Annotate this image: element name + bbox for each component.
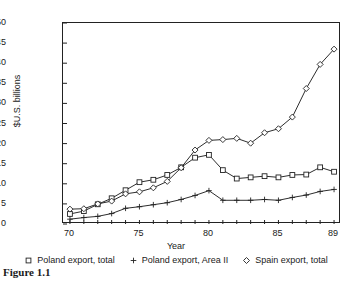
x-tick-label: 75 <box>126 229 150 238</box>
legend-square-icon <box>24 256 33 265</box>
x-tick-label: 89 <box>321 229 345 238</box>
y-tick-label: 15 <box>0 159 6 168</box>
legend-entry: Poland export, Area II <box>129 255 229 265</box>
legend-diamond-icon <box>242 256 251 265</box>
y-tick-label: 50 <box>0 18 6 27</box>
figure-caption: Figure 1.1 <box>3 266 50 278</box>
legend-label: Poland export, Area II <box>142 255 229 265</box>
y-tick-label: 45 <box>0 38 6 47</box>
y-tick-label: 35 <box>0 78 6 87</box>
data-series <box>67 187 337 222</box>
y-tick-label: 30 <box>0 98 6 107</box>
legend-entry: Poland export, total <box>24 255 115 265</box>
y-tick-label: 10 <box>0 179 6 188</box>
legend-label: Spain export, total <box>255 255 328 265</box>
y-tick-label: 0 <box>0 219 6 228</box>
plot-area <box>62 22 340 223</box>
data-series <box>68 152 337 216</box>
x-tick-label: 70 <box>57 229 81 238</box>
y-tick-label: 25 <box>0 119 6 128</box>
chart-legend: Poland export, totalPoland export, Area … <box>0 255 352 265</box>
legend-entry: Spain export, total <box>242 255 328 265</box>
x-tick-label: 80 <box>196 229 220 238</box>
x-axis-title: Year <box>0 241 352 251</box>
y-tick-label: 40 <box>0 58 6 67</box>
figure-container: $U.S. billions 05101520253035404550 7075… <box>0 0 352 283</box>
chart-figure: $U.S. billions 05101520253035404550 7075… <box>0 0 352 262</box>
y-tick-label: 20 <box>0 139 6 148</box>
x-tick-label: 85 <box>265 229 289 238</box>
series-canvas <box>63 23 341 224</box>
legend-label: Poland export, total <box>37 255 115 265</box>
data-series <box>67 46 337 212</box>
y-tick-label: 5 <box>0 199 6 208</box>
legend-plus-icon <box>129 256 138 265</box>
